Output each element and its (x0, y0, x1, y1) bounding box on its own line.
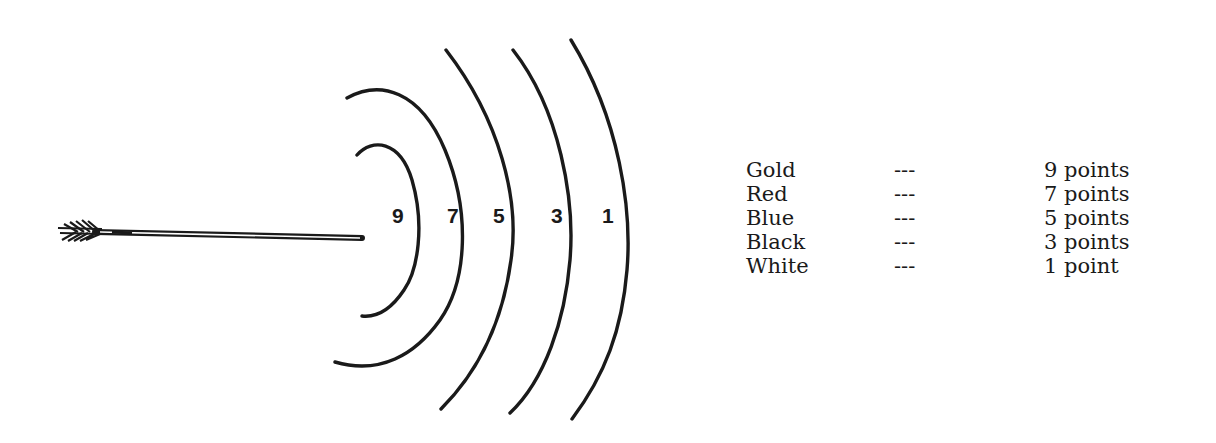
ring-9-arc (357, 145, 419, 316)
ring-label-7: 7 (447, 204, 459, 227)
ring-label-1: 1 (602, 204, 614, 227)
legend-color: Black (746, 230, 805, 254)
legend-color: White (746, 254, 809, 278)
legend-separator: --- (894, 254, 915, 278)
legend-color: Gold (746, 158, 796, 182)
legend-separator: --- (894, 230, 915, 254)
ring-7-arc (335, 90, 462, 366)
legend-separator: --- (894, 182, 915, 206)
target-rings (335, 40, 628, 419)
legend-points: 9 points (1044, 158, 1130, 182)
legend-points: 7 points (1044, 182, 1130, 206)
arrow-icon (58, 220, 362, 241)
target-diagram: 9 7 5 3 1 (0, 0, 1216, 443)
legend-points: 5 points (1044, 206, 1130, 230)
ring-5-arc (441, 50, 513, 409)
legend-points: 1 point (1044, 254, 1119, 278)
legend-color: Red (746, 182, 788, 206)
ring-label-9: 9 (392, 204, 404, 227)
legend-points: 3 points (1044, 230, 1130, 254)
ring-label-5: 5 (493, 204, 505, 227)
ring-label-3: 3 (551, 204, 563, 227)
legend-separator: --- (894, 206, 915, 230)
ring-3-arc (510, 50, 571, 413)
legend-separator: --- (894, 158, 915, 182)
ring-1-arc (571, 40, 628, 419)
legend-color: Blue (746, 206, 794, 230)
